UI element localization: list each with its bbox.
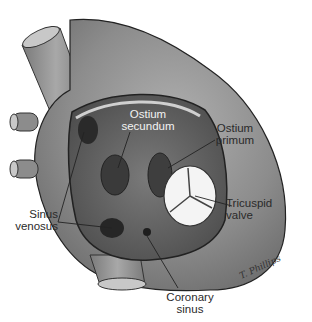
label-line: Tricuspid [226, 197, 284, 209]
label-line: secundum [120, 120, 176, 132]
label-tricuspid-valve: Tricuspid valve [226, 197, 284, 221]
label-ostium-primum: Ostium primum [210, 122, 260, 146]
label-ostium-secundum: Ostium secundum [120, 108, 176, 132]
sinus-venosus-upper [78, 116, 98, 144]
heart-drawing [0, 0, 312, 322]
label-coronary-sinus: Coronary sinus [160, 291, 220, 315]
ostium-secundum-defect [101, 155, 129, 195]
label-line: primum [210, 134, 260, 146]
label-line: Ostium [120, 108, 176, 120]
coronary-sinus-orifice [143, 228, 151, 236]
label-line: valve [226, 209, 284, 221]
label-line: Ostium [210, 122, 260, 134]
label-line: Sinus [10, 208, 58, 220]
tricuspid-valve [164, 166, 216, 226]
label-sinus-venosus: Sinus venosus [10, 208, 58, 232]
label-line: sinus [160, 303, 220, 315]
heart-illustration: Ostium secundum Ostium primum Tricuspid … [0, 0, 312, 322]
pulmonary-veins [10, 113, 38, 178]
label-line: venosus [10, 220, 58, 232]
label-line: Coronary [160, 291, 220, 303]
